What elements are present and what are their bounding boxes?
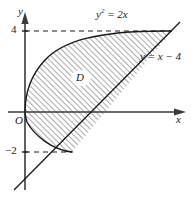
- y-tick-label-neg2: −2: [5, 145, 17, 156]
- parabola-label-rest: = 2x: [104, 8, 127, 20]
- y-tick-label-4: 4: [11, 24, 17, 35]
- y-axis-label: y: [18, 6, 23, 17]
- parabola-equation-label: y2 = 2x: [96, 8, 128, 20]
- line-equation-label: y = x − 4: [140, 51, 181, 62]
- plot-canvas: [0, 0, 194, 198]
- x-axis-label: x: [176, 114, 181, 125]
- math-figure: y x O 4 −2 y2 = 2x y = x − 4 D: [0, 0, 194, 198]
- region-label: D: [76, 72, 84, 83]
- origin-label: O: [15, 115, 23, 126]
